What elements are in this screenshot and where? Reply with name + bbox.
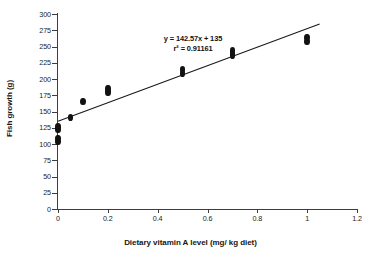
x-tick-label: 1.2 [343, 214, 371, 223]
y-tick-label: 225 [26, 58, 51, 67]
x-tick-mark [158, 209, 159, 213]
y-tick-label: 125 [26, 123, 51, 132]
data-point [55, 123, 60, 130]
data-point [304, 34, 309, 41]
data-point [105, 85, 110, 92]
x-tick-label: 0.2 [94, 214, 122, 223]
x-tick-mark [58, 209, 59, 213]
x-axis-title: Dietary vitamin A level (mg/ kg diet) [0, 238, 381, 247]
y-tick-mark [52, 30, 57, 31]
y-tick-mark [52, 177, 57, 178]
x-tick-mark [357, 209, 358, 213]
y-tick-mark [52, 160, 57, 161]
fish-growth-scatter-chart: 0255075100125150175200225250275300 00.20… [0, 0, 381, 264]
x-tick-label: 0.4 [144, 214, 172, 223]
x-tick-label: 0.6 [194, 214, 222, 223]
y-tick-mark [52, 209, 57, 210]
data-point [80, 98, 85, 105]
y-tick-label: 200 [26, 75, 51, 84]
y-axis-title: Fish growth (g) [5, 59, 14, 159]
regression-equation: y = 142.57x + 135 [150, 34, 236, 44]
y-tick-label: 150 [26, 107, 51, 116]
y-tick-label: 75 [26, 156, 51, 165]
y-tick-label: 50 [26, 172, 51, 181]
data-point [55, 135, 60, 142]
y-tick-label: 250 [26, 42, 51, 51]
y-tick-mark [52, 47, 57, 48]
y-tick-label: 100 [26, 140, 51, 149]
y-tick-mark [52, 14, 57, 15]
regression-annotation: y = 142.57x + 135 r² = 0.91161 [150, 34, 236, 54]
x-tick-mark [257, 209, 258, 213]
y-tick-label: 0 [26, 205, 51, 214]
y-tick-label: 175 [26, 91, 51, 100]
y-tick-label: 25 [26, 188, 51, 197]
x-tick-mark [108, 209, 109, 213]
y-tick-mark [52, 63, 57, 64]
y-tick-mark [52, 112, 57, 113]
y-tick-mark [52, 79, 57, 80]
y-tick-label: 300 [26, 10, 51, 19]
x-tick-mark [208, 209, 209, 213]
y-tick-mark [52, 193, 57, 194]
y-tick-mark [52, 95, 57, 96]
x-tick-label: 0.8 [243, 214, 271, 223]
x-tick-mark [307, 209, 308, 213]
r-squared: r² = 0.91161 [150, 44, 236, 54]
y-tick-label: 275 [26, 26, 51, 35]
x-tick-label: 1 [293, 214, 321, 223]
data-point [68, 114, 73, 121]
x-tick-label: 0 [44, 214, 72, 223]
